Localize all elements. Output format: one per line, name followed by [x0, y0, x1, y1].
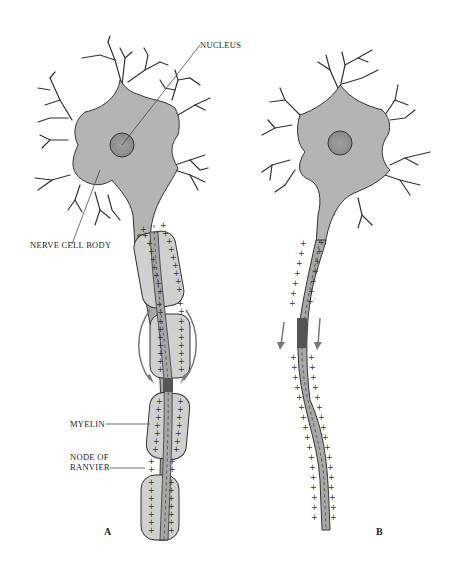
nucleus-b: [328, 131, 352, 155]
svg-text:+: +: [316, 247, 323, 256]
svg-text:+: +: [310, 373, 317, 382]
svg-text:+: +: [316, 403, 323, 412]
svg-text:+: +: [327, 463, 334, 472]
svg-text:+: +: [314, 257, 321, 266]
svg-text:+: +: [318, 413, 325, 422]
svg-text:+: +: [292, 279, 299, 288]
svg-text:+: +: [176, 285, 183, 294]
svg-text:+: +: [296, 393, 303, 402]
svg-text:+: +: [311, 493, 318, 502]
svg-text:+: +: [308, 353, 315, 362]
svg-text:+: +: [302, 423, 309, 432]
svg-text:+: +: [152, 445, 159, 454]
neuron-diagram: ++++ +++++++ +++++++ ++++ +++++++ ++++++…: [0, 0, 466, 570]
svg-text:+: +: [306, 443, 313, 452]
svg-text:+: +: [312, 267, 319, 276]
svg-text:+: +: [296, 259, 303, 268]
svg-text:+: +: [318, 238, 325, 247]
svg-text:+: +: [312, 383, 319, 392]
svg-text:+: +: [328, 473, 335, 482]
svg-text:+: +: [290, 353, 297, 362]
svg-text:+: +: [310, 483, 317, 492]
label-nerve-cell-body: NERVE CELL BODY: [30, 240, 111, 250]
arrow-head-icon: [147, 374, 154, 384]
svg-text:+: +: [298, 249, 305, 258]
svg-text:+: +: [169, 465, 176, 474]
svg-text:+: +: [328, 483, 335, 492]
svg-text:+: +: [304, 433, 311, 442]
svg-text:+: +: [307, 297, 314, 306]
svg-text:+: +: [324, 443, 331, 452]
svg-text:+: +: [300, 413, 307, 422]
label-node-of-ranvier-1: NODE OF: [70, 452, 109, 462]
svg-text:+: +: [322, 433, 329, 442]
svg-text:+: +: [157, 365, 164, 374]
svg-text:+: +: [298, 403, 305, 412]
svg-text:+: +: [310, 277, 317, 286]
cell-body-b: [298, 85, 390, 245]
svg-text:+: +: [320, 423, 327, 432]
active-node-a: [163, 378, 173, 392]
svg-text:+: +: [168, 526, 175, 535]
svg-text:+: +: [310, 473, 317, 482]
svg-text:+: +: [178, 307, 185, 316]
svg-text:+: +: [294, 383, 301, 392]
svg-text:+: +: [289, 299, 296, 308]
svg-text:+: +: [300, 239, 307, 248]
svg-text:+: +: [291, 363, 298, 372]
arrow-head-icon: [277, 342, 285, 350]
svg-text:+: +: [178, 365, 185, 374]
svg-text:+: +: [314, 393, 321, 402]
svg-text:+: +: [330, 513, 337, 522]
svg-text:+: +: [308, 453, 315, 462]
svg-text:+: +: [311, 503, 318, 512]
panel-label-a: A: [104, 526, 112, 537]
svg-text:+: +: [157, 308, 164, 317]
svg-text:+: +: [330, 503, 337, 512]
svg-text:+: +: [309, 363, 316, 372]
svg-text:+: +: [308, 287, 315, 296]
panel-b: ++ ++ ++ ++ ++ ++ ++ ++ ++ ++ ++ ++ ++ +…: [262, 50, 430, 537]
charges-b: ++ ++ ++ ++ ++ ++ ++ ++ ++ ++ ++ ++ ++ +…: [289, 238, 337, 522]
panel-a: ++++ +++++++ +++++++ ++++ +++++++ ++++++…: [30, 36, 241, 540]
svg-text:+: +: [157, 287, 164, 296]
svg-text:+: +: [148, 526, 155, 535]
svg-text:+: +: [294, 269, 301, 278]
svg-text:+: +: [309, 463, 316, 472]
svg-text:+: +: [326, 453, 333, 462]
panel-label-b: B: [376, 526, 383, 537]
svg-text:+: +: [292, 373, 299, 382]
label-myelin: MYELIN: [70, 419, 105, 429]
svg-text:+: +: [311, 513, 318, 522]
active-region-b: [297, 318, 307, 348]
label-node-of-ranvier-2: RANVIER: [70, 462, 110, 472]
svg-text:+: +: [148, 465, 155, 474]
svg-text:+: +: [329, 493, 336, 502]
svg-text:+: +: [173, 445, 180, 454]
label-nucleus: NUCLEUS: [200, 40, 241, 50]
arrow-head-icon: [314, 342, 322, 350]
svg-text:+: +: [290, 289, 297, 298]
